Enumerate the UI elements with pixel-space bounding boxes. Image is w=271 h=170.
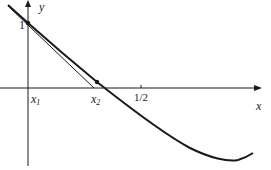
x-axis-label: x xyxy=(256,100,261,112)
newton-method-diagram xyxy=(0,0,271,170)
half-tick-label: 1/2 xyxy=(134,92,148,103)
y-axis-arrow-icon xyxy=(25,0,31,7)
point-on-curve-x2 xyxy=(95,80,99,84)
x2-label: x2 xyxy=(91,93,100,107)
point-y-intercept xyxy=(26,21,30,25)
function-curve xyxy=(8,5,253,161)
x-axis-arrow-icon xyxy=(254,85,262,91)
x1-label: x1 xyxy=(31,93,40,107)
x-axis xyxy=(0,85,262,91)
y-intercept-label: 1 xyxy=(19,19,25,31)
y-axis-label: y xyxy=(39,1,44,13)
